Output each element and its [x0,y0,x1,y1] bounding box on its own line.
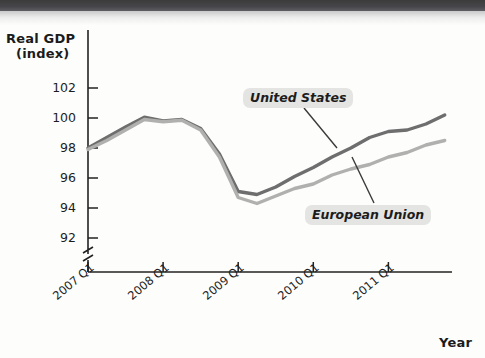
series-label-european-union: European Union [305,205,431,225]
y-axis-tick-marks [88,88,98,238]
y-axis-tick-label: 100 [40,110,76,125]
series-label-united-states: United States [243,88,353,108]
series-lines [88,115,445,204]
y-axis-tick-label: 92 [40,230,76,245]
y-axis-tick-label: 102 [40,80,76,95]
united-states-leader-line [304,108,337,148]
chart-figure: Real GDP (index) Year 92949698100102 200… [0,0,485,358]
y-axis-tick-label: 98 [40,140,76,155]
y-axis-tick-label: 94 [40,200,76,215]
y-axis-tick-label: 96 [40,170,76,185]
